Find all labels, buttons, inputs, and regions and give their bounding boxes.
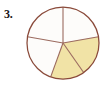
fraction-circle-figure [0,0,112,94]
worksheet-figure-screenshot: 3. [0,0,112,94]
pie-chart-svg [0,0,112,94]
